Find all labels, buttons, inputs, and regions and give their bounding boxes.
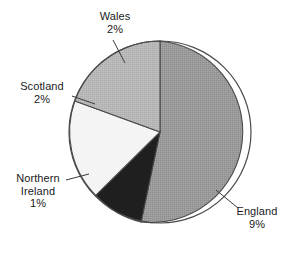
pie-label-england-name: England (228, 205, 286, 218)
pie-label-wales-value: 2% (84, 23, 146, 36)
pie-label-scotland-name: Scotland (8, 80, 76, 93)
pie-chart-figure: Wales 2% Scotland 2% Northern Ireland 1%… (0, 0, 294, 253)
pie-label-northern-ireland-line2: Ireland (4, 185, 72, 198)
pie-label-scotland-value: 2% (8, 93, 76, 106)
pie-label-england-value: 9% (228, 218, 286, 231)
pie-label-scotland: Scotland 2% (8, 80, 76, 105)
pie-label-northern-ireland: Northern Ireland 1% (4, 172, 72, 210)
pie-label-northern-ireland-line1: Northern (4, 172, 72, 185)
pie-label-wales-name: Wales (84, 10, 146, 23)
pie-label-england: England 9% (228, 205, 286, 230)
pie-label-northern-ireland-value: 1% (4, 197, 72, 210)
pie-label-wales: Wales 2% (84, 10, 146, 35)
